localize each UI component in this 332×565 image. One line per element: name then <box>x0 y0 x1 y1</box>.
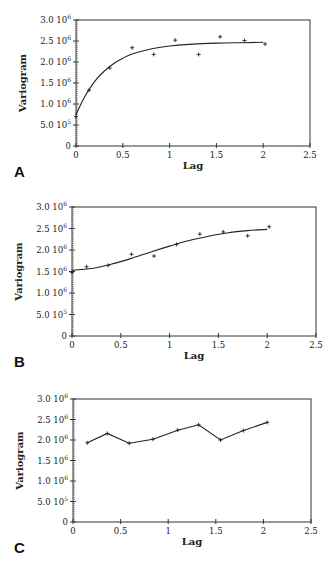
plot-frame <box>73 399 311 522</box>
data-point-marker <box>151 437 155 441</box>
y-axis-title: Variogram <box>17 53 28 113</box>
x-tick-label: 0 <box>69 340 74 350</box>
y-tick-label: 5.0 105 <box>36 308 67 320</box>
data-point-marker <box>241 429 245 433</box>
y-tick-label: 3.0 106 <box>40 13 71 25</box>
plot-frame <box>72 207 316 336</box>
series-line <box>87 422 267 443</box>
y-axis-title: Variogram <box>13 242 24 302</box>
data-point-marker <box>152 52 156 56</box>
x-axis-title: Lag <box>182 536 203 547</box>
data-point-marker <box>127 441 131 445</box>
x-axis-title: Lag <box>184 350 205 361</box>
y-tick-label: 3.0 106 <box>37 392 68 404</box>
y-tick-label: 5.0 105 <box>40 118 71 130</box>
y-tick-label: 0 <box>63 517 68 527</box>
data-point-marker <box>198 232 202 236</box>
panel-letter: A <box>14 163 25 180</box>
y-axis-title: Variogram <box>14 431 25 491</box>
panel-b: 05.0 1051.0 1061.5 1062.0 1062.5 1063.0 … <box>0 190 332 380</box>
data-point-marker <box>242 39 246 43</box>
variogram-chart-c: 05.0 1051.0 1061.5 1062.0 1062.5 1063.0 … <box>0 375 332 565</box>
data-point-marker <box>130 46 134 50</box>
x-tick-label: 0.5 <box>114 526 128 536</box>
panel-letter: C <box>14 539 25 556</box>
y-tick-label: 2.5 106 <box>36 222 67 234</box>
data-point-marker <box>246 234 250 238</box>
y-tick-label: 0 <box>66 141 71 151</box>
x-tick-label: 1.5 <box>212 340 226 350</box>
data-point-marker <box>176 428 180 432</box>
x-tick-label: 0.5 <box>114 340 128 350</box>
x-tick-label: 1.5 <box>209 526 223 536</box>
data-point-marker <box>265 420 269 424</box>
x-tick-label: 2 <box>261 526 266 536</box>
y-tick-label: 3.0 106 <box>36 200 67 212</box>
y-tick-label: 1.5 106 <box>40 76 71 88</box>
x-tick-label: 0 <box>73 150 78 160</box>
x-tick-label: 0.5 <box>116 150 130 160</box>
y-tick-label: 2.5 106 <box>37 413 68 425</box>
plot-frame <box>76 20 310 146</box>
series-line <box>76 42 263 114</box>
data-point-marker <box>74 115 78 119</box>
y-tick-label: 2.0 106 <box>37 433 68 445</box>
x-tick-label: 2 <box>260 150 265 160</box>
panel-letter: B <box>14 353 25 370</box>
variogram-chart-b: 05.0 1051.0 1061.5 1062.0 1062.5 1063.0 … <box>0 190 332 380</box>
y-tick-label: 2.0 106 <box>40 55 71 67</box>
y-tick-label: 2.0 106 <box>36 243 67 255</box>
variogram-chart-a: 05.0 1051.0 1061.5 1062.0 1062.5 1063.0 … <box>0 0 332 190</box>
x-tick-label: 2 <box>264 340 269 350</box>
data-point-marker <box>197 52 201 56</box>
x-axis-title: Lag <box>183 160 204 171</box>
x-tick-label: 1 <box>165 526 170 536</box>
data-point-marker <box>85 265 89 269</box>
x-tick-label: 1 <box>167 340 172 350</box>
x-tick-label: 2.5 <box>309 340 323 350</box>
x-tick-label: 2.5 <box>304 526 318 536</box>
panel-c: 05.0 1051.0 1061.5 1062.0 1062.5 1063.0 … <box>0 375 332 565</box>
data-point-marker <box>267 225 271 229</box>
series-line <box>72 229 267 270</box>
data-point-marker <box>263 42 267 46</box>
x-tick-label: 2.5 <box>303 150 317 160</box>
x-tick-label: 1.5 <box>210 150 224 160</box>
x-tick-label: 1 <box>167 150 172 160</box>
y-tick-label: 1.0 106 <box>36 286 67 298</box>
y-tick-label: 2.5 106 <box>40 34 71 46</box>
y-tick-label: 1.5 106 <box>36 265 67 277</box>
data-point-marker <box>130 252 134 256</box>
data-point-marker <box>105 431 109 435</box>
y-tick-label: 5.0 105 <box>37 495 68 507</box>
data-point-marker <box>85 441 89 445</box>
panel-a: 05.0 1051.0 1061.5 1062.0 1062.5 1063.0 … <box>0 0 332 190</box>
x-tick-label: 0 <box>70 526 75 536</box>
data-point-marker <box>218 35 222 39</box>
data-point-marker <box>173 38 177 42</box>
y-tick-label: 1.0 106 <box>37 474 68 486</box>
data-point-marker <box>152 254 156 258</box>
y-tick-label: 1.0 106 <box>40 97 71 109</box>
y-tick-label: 1.5 106 <box>37 454 68 466</box>
y-tick-label: 0 <box>62 331 67 341</box>
